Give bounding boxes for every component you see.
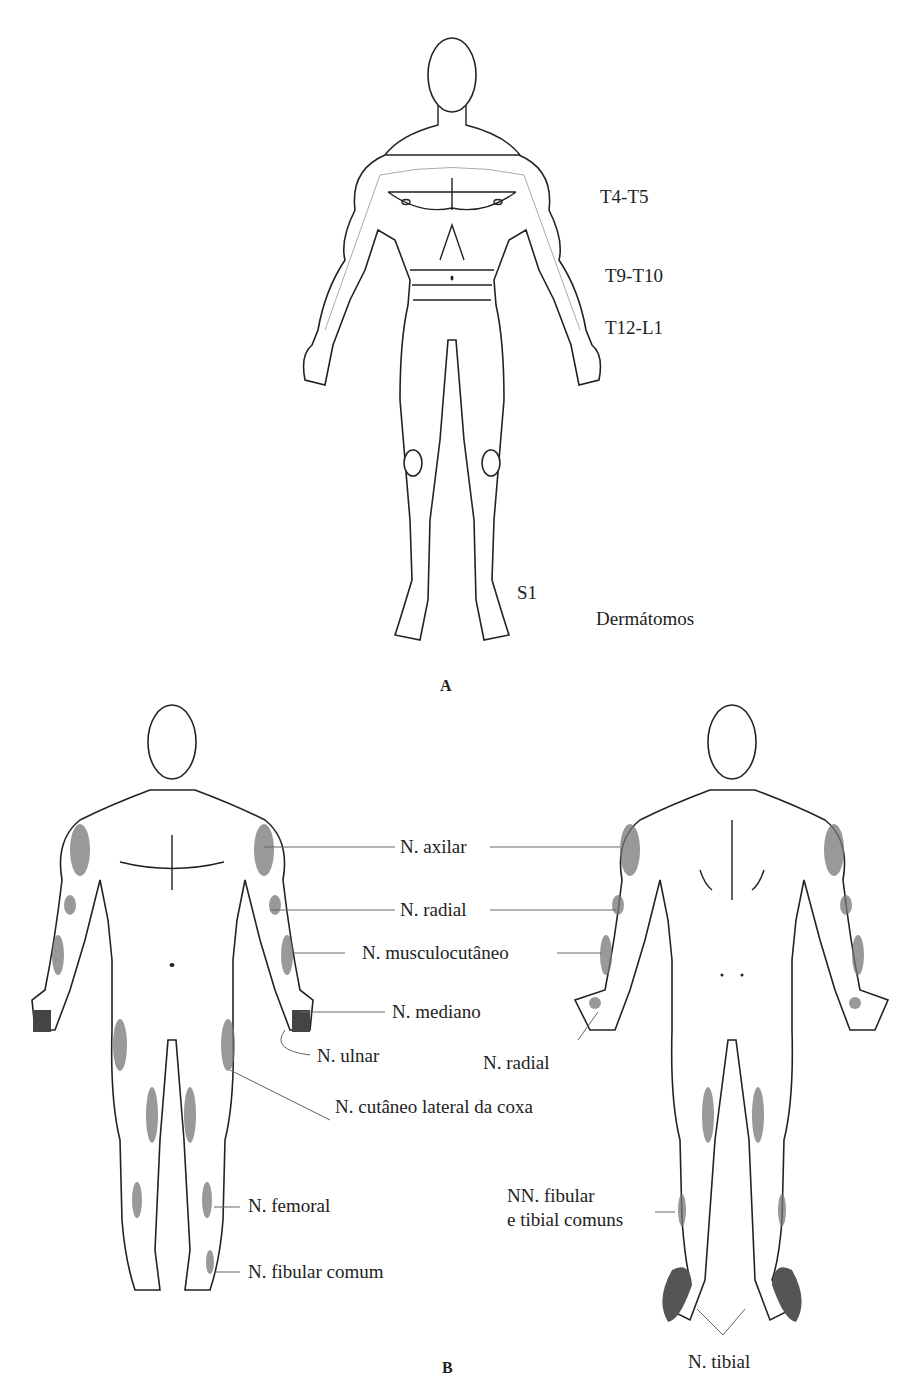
nerve-cutaneo-lateral-coxa: N. cutâneo lateral da coxa	[335, 1097, 533, 1116]
nerve-tibial: N. tibial	[688, 1352, 750, 1371]
dermatome-t9-t10: T9-T10	[605, 266, 663, 285]
nerve-femoral: N. femoral	[248, 1196, 330, 1215]
figure-a-body	[304, 38, 601, 640]
nerve-ulnar: N. ulnar	[317, 1046, 379, 1065]
nerve-axilar: N. axilar	[400, 837, 466, 856]
panel-a-label: A	[440, 678, 452, 694]
nerve-musculocutaneo: N. musculocutâneo	[362, 943, 509, 962]
anatomy-figures	[0, 0, 906, 1394]
nerve-radial: N. radial	[400, 900, 466, 919]
dermatome-t4-t5: T4-T5	[600, 187, 649, 206]
nerves-fibular-tibial-line2: e tibial comuns	[507, 1210, 623, 1229]
nerve-radial-posterior: N. radial	[483, 1053, 549, 1072]
nerve-mediano: N. mediano	[392, 1002, 481, 1021]
dermatome-t12-l1: T12-L1	[605, 318, 663, 337]
nerve-fibular-comum: N. fibular comum	[248, 1262, 384, 1281]
panel-a-title: Dermátomos	[596, 609, 694, 628]
nerves-fibular-tibial-line1: NN. fibular	[507, 1186, 595, 1205]
dermatome-s1: S1	[517, 583, 537, 602]
panel-b-label: B	[442, 1360, 453, 1376]
